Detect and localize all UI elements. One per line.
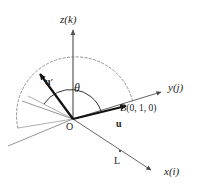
origin-label: O xyxy=(66,122,73,132)
diagram-canvas xyxy=(0,0,206,187)
x-axis xyxy=(73,119,151,170)
u-prime-projection-guide xyxy=(28,96,73,119)
z-axis-label: z(k) xyxy=(60,14,77,25)
x-axis-label: x(i) xyxy=(164,166,179,177)
negative-y-axis-line xyxy=(8,119,73,146)
vector-u-prime-mark: ′ xyxy=(51,77,54,87)
arc-chord-guide-line xyxy=(18,119,73,128)
vector-u-label: u xyxy=(116,119,122,129)
vector-u-prime-label: u′ xyxy=(45,72,53,88)
line-l-marker xyxy=(119,150,121,152)
y-axis-label: y(j) xyxy=(168,82,183,93)
point-b-label: B(0, 1, 0) xyxy=(120,104,156,114)
line-l-label: L xyxy=(114,156,120,166)
theta-label: θ xyxy=(74,82,80,94)
vector-rotation-diagram: z(k) y(j) x(i) u u′ θ O B(0, 1, 0) L xyxy=(0,0,206,187)
